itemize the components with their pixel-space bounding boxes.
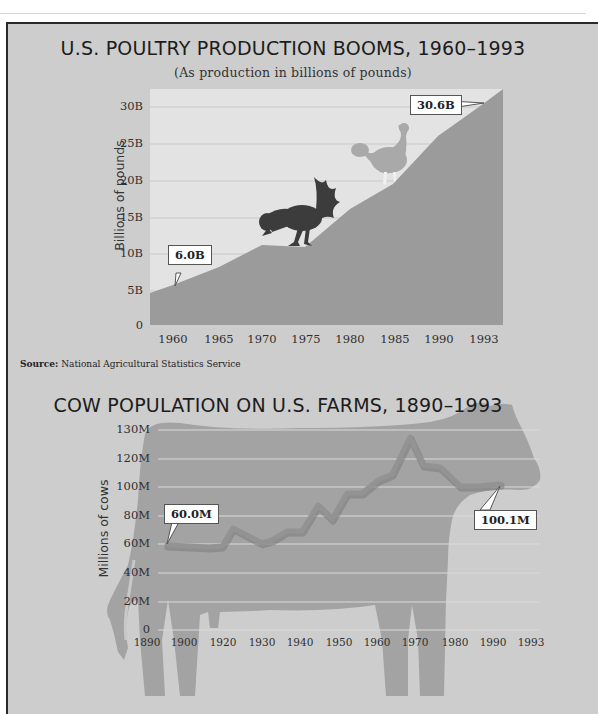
cow-x-tick: 1980	[442, 636, 469, 648]
cow-y-tick: 0	[100, 622, 150, 636]
cow-chart-title: COW POPULATION ON U.S. FARMS, 1890–1993	[0, 394, 571, 416]
cow-y-tick: 20M	[100, 594, 150, 608]
cow-x-tick: 1930	[249, 636, 276, 648]
cow-y-tick: 80M	[100, 508, 150, 522]
cow-x-tick: 1993	[518, 636, 545, 648]
cow-y-tick: 130M	[100, 422, 150, 436]
cow-x-tick: 1890	[134, 636, 161, 648]
cow-x-tick: 1940	[287, 636, 314, 648]
callout-cows-1993: 100.1M	[474, 510, 537, 530]
cow-x-tick: 1900	[171, 636, 198, 648]
cow-y-tick: 40M	[100, 565, 150, 579]
cow-x-tick: 1920	[210, 636, 237, 648]
cow-x-tick: 1950	[326, 636, 353, 648]
callout-cows-1890: 60.0M	[164, 504, 219, 524]
cow-y-tick: 60M	[100, 536, 150, 550]
cow-y-axis-label: Millions of cows	[96, 479, 111, 577]
cow-y-tick: 120M	[100, 451, 150, 465]
cow-y-tick: 100M	[100, 479, 150, 493]
cow-x-tick: 1990	[480, 636, 507, 648]
cow-x-tick: 1960	[364, 636, 391, 648]
cow-x-tick: 1970	[402, 636, 429, 648]
